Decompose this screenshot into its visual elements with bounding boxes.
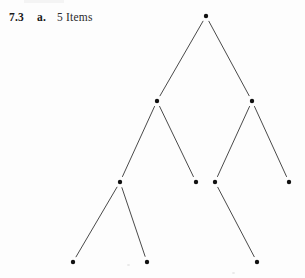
tree-node (250, 99, 254, 103)
tree-edge (160, 21, 203, 96)
tree-node (213, 180, 217, 184)
scan-speck (24, 0, 64, 3)
tree-edge (254, 106, 286, 176)
tree-edge (76, 187, 117, 257)
tree-edge (122, 188, 145, 257)
scan-speck (232, 272, 235, 274)
tree-node-layer (71, 14, 291, 264)
tree-node (287, 180, 291, 184)
figure-page: 7.3a.5 Items (0, 0, 305, 278)
scan-speck (127, 264, 130, 266)
tree-edge-layer (76, 21, 286, 257)
tree-edge (217, 106, 249, 176)
tree-edge (160, 106, 194, 176)
tree-node (204, 14, 208, 18)
tree-node (118, 180, 122, 184)
tree-edge (209, 21, 249, 95)
tree-edge (122, 106, 154, 176)
binary-tree-diagram (0, 0, 305, 278)
tree-node (145, 260, 149, 264)
tree-node (71, 260, 75, 264)
tree-edge (218, 187, 254, 256)
tree-node (194, 180, 198, 184)
tree-node (255, 260, 259, 264)
tree-node (155, 99, 159, 103)
